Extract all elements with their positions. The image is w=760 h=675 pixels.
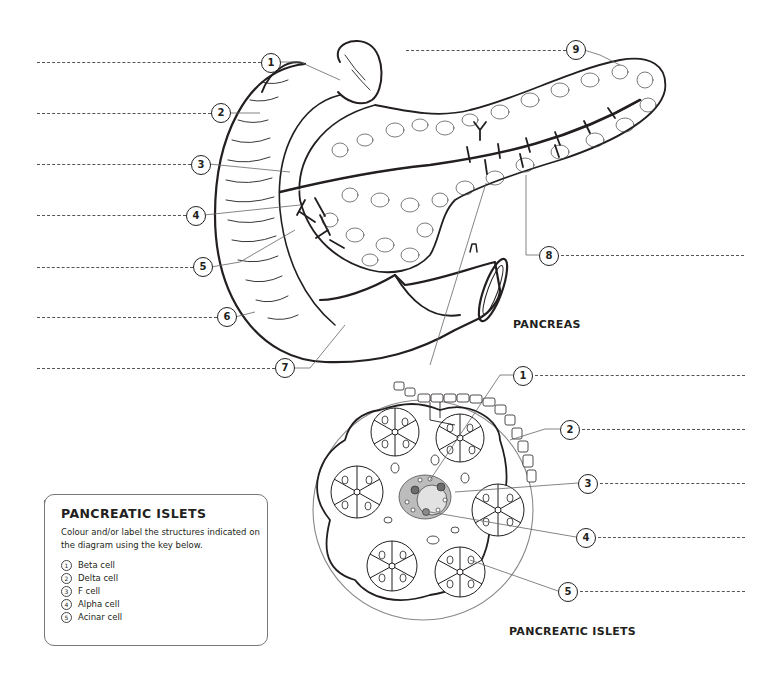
key-number: 5 bbox=[61, 612, 72, 623]
callout-islet-2: 2 bbox=[560, 420, 580, 440]
answer-line-pancreas-1[interactable] bbox=[37, 62, 261, 63]
key-number: 4 bbox=[61, 599, 72, 610]
callout-islet-3: 3 bbox=[578, 474, 598, 494]
answer-line-pancreas-7[interactable] bbox=[37, 368, 275, 369]
key-item-acinar: 5Acinar cell bbox=[61, 611, 122, 624]
callout-islet-1: 1 bbox=[513, 366, 533, 386]
key-item-f: 3F cell bbox=[61, 585, 122, 598]
callout-pancreas-8: 8 bbox=[539, 246, 559, 266]
answer-line-pancreas-2[interactable] bbox=[37, 113, 211, 114]
answer-line-islet-5[interactable] bbox=[580, 591, 745, 592]
callout-pancreas-4: 4 bbox=[186, 206, 206, 226]
callout-pancreas-7: 7 bbox=[275, 358, 295, 378]
answer-line-pancreas-8[interactable] bbox=[561, 255, 744, 256]
key-number: 1 bbox=[61, 560, 72, 571]
key-list: 1Beta cell 2Delta cell 3F cell 4Alpha ce… bbox=[61, 559, 122, 624]
islets-title: PANCREATIC ISLETS bbox=[509, 625, 636, 638]
key-number: 3 bbox=[61, 586, 72, 597]
answer-line-islet-4[interactable] bbox=[598, 537, 745, 538]
key-label: F cell bbox=[78, 585, 100, 598]
pancreas-title: PANCREAS bbox=[513, 318, 581, 331]
callout-pancreas-5: 5 bbox=[193, 257, 213, 277]
answer-line-pancreas-6[interactable] bbox=[37, 317, 217, 318]
answer-line-pancreas-3[interactable] bbox=[37, 164, 191, 165]
answer-line-pancreas-9[interactable] bbox=[406, 50, 566, 51]
callout-pancreas-2: 2 bbox=[211, 103, 231, 123]
answer-line-islet-3[interactable] bbox=[600, 483, 745, 484]
answer-line-pancreas-4[interactable] bbox=[37, 215, 186, 216]
answer-line-islet-2[interactable] bbox=[582, 429, 745, 430]
key-panel: PANCREATIC ISLETS Colour and/or label th… bbox=[44, 494, 268, 646]
key-heading: PANCREATIC ISLETS bbox=[61, 506, 206, 521]
key-item-alpha: 4Alpha cell bbox=[61, 598, 122, 611]
key-instructions: Colour and/or label the structures indic… bbox=[61, 526, 261, 552]
callout-pancreas-3: 3 bbox=[191, 155, 211, 175]
key-item-delta: 2Delta cell bbox=[61, 572, 122, 585]
callout-pancreas-9: 9 bbox=[566, 40, 586, 60]
answer-line-islet-1[interactable] bbox=[535, 375, 745, 376]
key-label: Acinar cell bbox=[78, 611, 122, 624]
worksheet: 1 2 3 4 5 6 7 8 9 PANCREAS 1 2 3 4 5 PAN… bbox=[0, 0, 760, 675]
key-label: Alpha cell bbox=[78, 598, 120, 611]
key-item-beta: 1Beta cell bbox=[61, 559, 122, 572]
callout-pancreas-6: 6 bbox=[217, 307, 237, 327]
answer-line-pancreas-5[interactable] bbox=[37, 267, 193, 268]
key-label: Beta cell bbox=[78, 559, 115, 572]
callout-islet-5: 5 bbox=[558, 582, 578, 602]
callout-islet-4: 4 bbox=[576, 528, 596, 548]
key-label: Delta cell bbox=[78, 572, 118, 585]
key-number: 2 bbox=[61, 573, 72, 584]
callout-pancreas-1: 1 bbox=[261, 53, 281, 73]
